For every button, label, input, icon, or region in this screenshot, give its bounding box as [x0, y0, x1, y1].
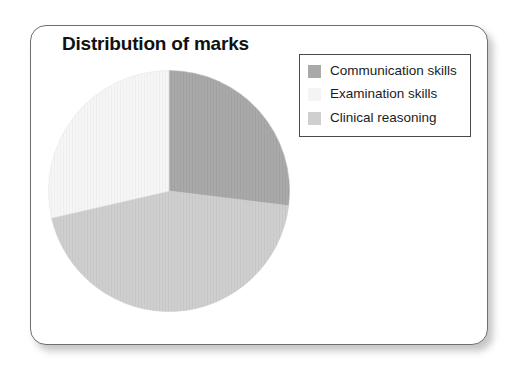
pie-chart-svg: [48, 70, 290, 312]
legend-item-examination-skills[interactable]: Examination skills: [308, 85, 462, 102]
legend-item-label: Examination skills: [330, 85, 437, 102]
page-title: Distribution of marks: [62, 33, 249, 55]
legend-item-clinical-reasoning[interactable]: Clinical reasoning: [308, 109, 462, 126]
legend-swatch-icon: [308, 88, 321, 101]
pie-slice-communication-skills: [169, 71, 289, 206]
legend-item-label: Clinical reasoning: [330, 109, 437, 126]
chart-legend: Communication skills Examination skills …: [299, 54, 471, 137]
legend-swatch-icon: [308, 112, 321, 125]
legend-swatch-icon: [308, 65, 321, 78]
legend-item-label: Communication skills: [330, 62, 457, 79]
pie-chart: [48, 70, 290, 312]
chart-screenshot: Distribution of marks: [0, 0, 519, 374]
legend-item-communication-skills[interactable]: Communication skills: [308, 62, 462, 79]
